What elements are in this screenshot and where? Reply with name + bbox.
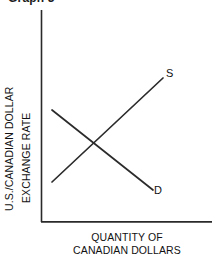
y-axis-label-line-1: U.S./CANADIAN DOLLAR: [4, 86, 15, 211]
x-axis-label: QUANTITY OF CANADIAN DOLLARS: [42, 231, 212, 257]
x-axis-label-line-1: QUANTITY OF: [42, 231, 212, 244]
exchange-rate-supply-demand-figure: Graph 3 U.S./CANADIAN DOLLAR EXCHANGE RA…: [0, 0, 217, 260]
demand-curve: [52, 110, 153, 190]
supply-curve-label: S: [166, 68, 173, 79]
x-axis-label-line-2: CANADIAN DOLLARS: [42, 244, 212, 257]
supply-curve: [52, 78, 163, 182]
demand-curve-label: D: [154, 185, 162, 196]
y-axis-label-line-2: EXCHANGE RATE: [21, 113, 32, 203]
plot-canvas: [0, 0, 217, 260]
